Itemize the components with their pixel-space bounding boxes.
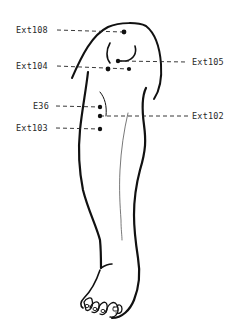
label-ext103: Ext103 bbox=[16, 123, 48, 133]
point-ext102-dot bbox=[98, 114, 102, 118]
point-ext105-dot bbox=[116, 59, 120, 63]
label-ext105: Ext105 bbox=[192, 57, 224, 67]
label-e36: E36 bbox=[33, 101, 49, 111]
leader-e36 bbox=[56, 106, 100, 107]
point-ext108-dot bbox=[122, 30, 127, 35]
label-ext108: Ext108 bbox=[16, 25, 48, 35]
point-ext103-dot bbox=[98, 127, 102, 131]
leg-outline-drawing bbox=[0, 0, 238, 332]
leader-ext103 bbox=[56, 128, 100, 129]
leader-ext104 bbox=[57, 66, 129, 69]
leader-ext108 bbox=[57, 30, 123, 32]
acupuncture-leg-diagram: Ext108 Ext104 Ext105 E36 Ext102 Ext103 bbox=[0, 0, 238, 332]
point-ext104-lateral-dot bbox=[127, 67, 131, 71]
label-ext104: Ext104 bbox=[16, 61, 48, 71]
point-e36-dot bbox=[98, 105, 102, 109]
point-ext104-dot bbox=[106, 67, 111, 72]
leader-ext105 bbox=[118, 61, 188, 62]
label-ext102: Ext102 bbox=[192, 111, 224, 121]
